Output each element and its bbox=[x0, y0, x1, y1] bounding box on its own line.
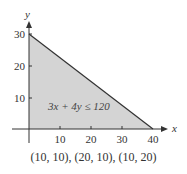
x-axis-arrow-icon bbox=[161, 126, 168, 132]
inequality-label: 3x + 4y ≤ 120 bbox=[47, 100, 110, 112]
inequality-graph: 10 20 30 40 10 20 30 x y 3x + 4y ≤ 120 bbox=[0, 0, 187, 174]
y-axis-arrow-icon bbox=[26, 21, 32, 28]
x-tick-label: 20 bbox=[86, 133, 98, 145]
y-axis-label: y bbox=[24, 8, 30, 20]
x-tick-label: 40 bbox=[148, 133, 160, 145]
x-tick-label: 30 bbox=[117, 133, 129, 145]
y-tick-label: 20 bbox=[14, 60, 26, 72]
x-axis-label: x bbox=[171, 122, 177, 134]
y-tick-label: 30 bbox=[14, 28, 26, 40]
x-tick-label: 10 bbox=[55, 133, 67, 145]
y-tick-label: 10 bbox=[14, 92, 26, 104]
points-caption: (10, 10), (20, 10), (10, 20) bbox=[0, 150, 187, 165]
